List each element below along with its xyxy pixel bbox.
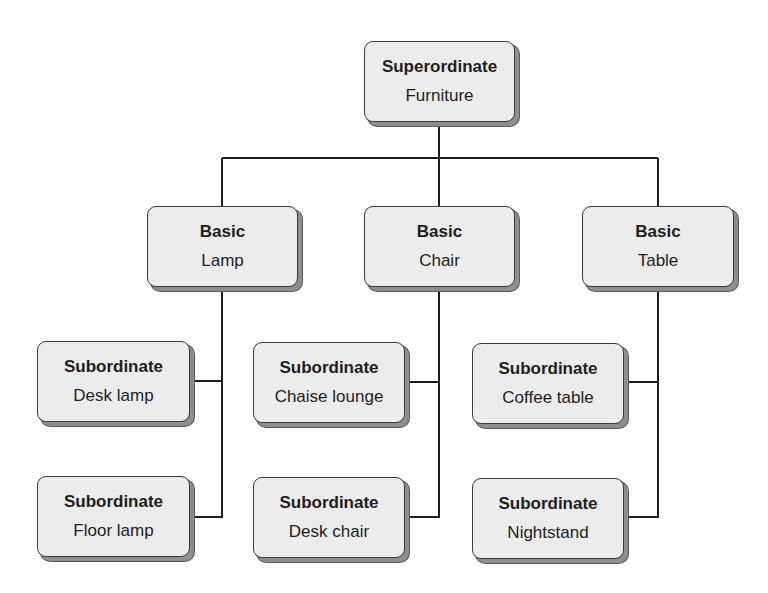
node-level-label: Subordinate: [64, 356, 163, 378]
connector-lamp-branch: [194, 290, 222, 517]
node-basic-lamp: Basic Lamp: [147, 206, 298, 287]
node-level-label: Subordinate: [279, 357, 378, 379]
node-basic-table: Basic Table: [582, 206, 734, 287]
node-subordinate-nightstand: Subordinate Nightstand: [472, 478, 624, 559]
node-basic-chair: Basic Chair: [364, 206, 515, 287]
node-subordinate-coffee-table: Subordinate Coffee table: [472, 343, 624, 424]
connector-chair-branch: [409, 290, 439, 517]
node-item-label: Lamp: [201, 250, 244, 272]
node-level-label: Basic: [417, 221, 462, 243]
node-subordinate-desk-lamp: Subordinate Desk lamp: [37, 341, 190, 422]
node-item-label: Desk chair: [289, 521, 369, 543]
node-level-label: Basic: [635, 221, 680, 243]
node-subordinate-floor-lamp: Subordinate Floor lamp: [37, 476, 190, 557]
node-level-label: Basic: [200, 221, 245, 243]
node-item-label: Chaise lounge: [275, 386, 384, 408]
node-item-label: Nightstand: [507, 522, 588, 544]
node-level-label: Subordinate: [498, 493, 597, 515]
node-level-label: Superordinate: [382, 56, 497, 78]
node-superordinate-furniture: Superordinate Furniture: [364, 41, 515, 122]
connector-table-branch: [628, 290, 658, 517]
node-item-label: Furniture: [405, 85, 473, 107]
node-item-label: Coffee table: [502, 387, 593, 409]
node-item-label: Desk lamp: [73, 385, 153, 407]
node-subordinate-desk-chair: Subordinate Desk chair: [253, 477, 405, 558]
node-level-label: Subordinate: [279, 492, 378, 514]
category-hierarchy-diagram: Superordinate Furniture Basic Lamp Basic…: [0, 0, 768, 593]
node-level-label: Subordinate: [64, 491, 163, 513]
node-level-label: Subordinate: [498, 358, 597, 380]
node-item-label: Floor lamp: [73, 520, 153, 542]
node-subordinate-chaise-lounge: Subordinate Chaise lounge: [253, 342, 405, 423]
node-item-label: Chair: [419, 250, 460, 272]
node-item-label: Table: [638, 250, 679, 272]
